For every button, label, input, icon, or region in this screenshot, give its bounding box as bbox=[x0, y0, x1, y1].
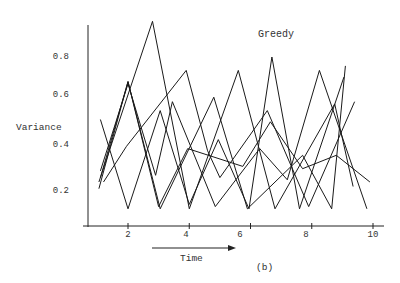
y-tick-label: 0.6 bbox=[39, 90, 69, 100]
y-tick-label: 0.4 bbox=[39, 140, 69, 150]
x-tick-label: 2 bbox=[118, 230, 138, 240]
chart-title: Greedy bbox=[258, 29, 294, 40]
y-axis-label: Variance bbox=[16, 122, 62, 133]
x-tick-label: 10 bbox=[363, 230, 383, 240]
series-line-run-6 bbox=[104, 70, 355, 206]
x-tick-label: 4 bbox=[176, 230, 196, 240]
y-tick-label: 0.2 bbox=[39, 186, 69, 196]
x-tick-label: 8 bbox=[296, 230, 316, 240]
y-tick-label: 0.8 bbox=[39, 52, 69, 62]
x-tick-label: 6 bbox=[230, 230, 250, 240]
series-lines bbox=[99, 21, 370, 209]
x-axis-label: Time bbox=[180, 253, 203, 264]
time-arrow-head-icon bbox=[228, 245, 236, 251]
series-line-run-4 bbox=[100, 70, 367, 208]
figure-caption: (b) bbox=[256, 262, 273, 273]
series-line-run-1 bbox=[100, 66, 345, 209]
